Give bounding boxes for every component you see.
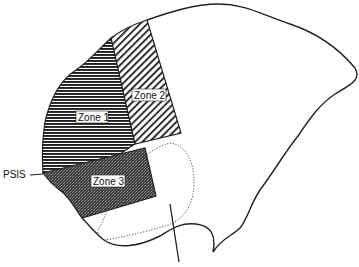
psis-label: PSIS: [3, 169, 26, 180]
zone-1-label: Zone 1: [76, 111, 110, 123]
svg-text:PSIS: PSIS: [3, 169, 26, 180]
vertical-marker-line: [170, 204, 179, 262]
psis-leader-line: [30, 174, 43, 175]
svg-text:Zone 1: Zone 1: [78, 112, 110, 123]
svg-text:Zone 3: Zone 3: [93, 176, 125, 187]
ilium-zone-diagram: PSIS Zone 1 Zone 2 Zone 3: [0, 0, 359, 267]
svg-text:Zone 2: Zone 2: [134, 90, 166, 101]
zone-2-label: Zone 2: [132, 89, 166, 101]
zone-3-label: Zone 3: [91, 175, 125, 187]
